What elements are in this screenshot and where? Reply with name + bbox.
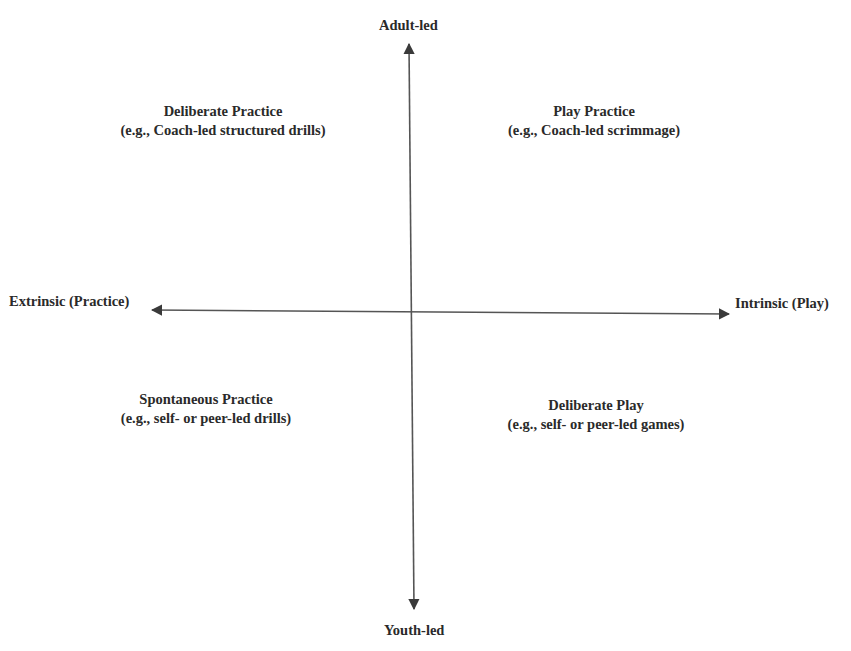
axes [0, 0, 851, 651]
quadrant-example: (e.g., Coach-led scrimmage) [508, 121, 680, 140]
quadrant-example: (e.g., Coach-led structured drills) [120, 121, 325, 140]
vertical-axis [409, 44, 414, 609]
axis-label-extrinsic: Extrinsic (Practice) [9, 292, 129, 311]
quadrant-example: (e.g., self- or peer-led games) [508, 415, 685, 434]
quadrant-title: Deliberate Play [508, 396, 685, 415]
axis-label-adult-led: Adult-led [379, 16, 438, 35]
quadrant-title: Play Practice [508, 102, 680, 121]
quadrant-deliberate-practice: Deliberate Practice (e.g., Coach-led str… [120, 102, 325, 140]
quadrant-play-practice: Play Practice (e.g., Coach-led scrimmage… [508, 102, 680, 140]
horizontal-axis [152, 310, 729, 314]
quadrant-example: (e.g., self- or peer-led drills) [121, 409, 291, 428]
quadrant-spontaneous-practice: Spontaneous Practice (e.g., self- or pee… [121, 390, 291, 428]
axis-label-intrinsic: Intrinsic (Play) [735, 294, 829, 313]
quadrant-title: Deliberate Practice [120, 102, 325, 121]
quadrant-deliberate-play: Deliberate Play (e.g., self- or peer-led… [508, 396, 685, 434]
axis-label-youth-led: Youth-led [384, 621, 444, 640]
quadrant-title: Spontaneous Practice [121, 390, 291, 409]
